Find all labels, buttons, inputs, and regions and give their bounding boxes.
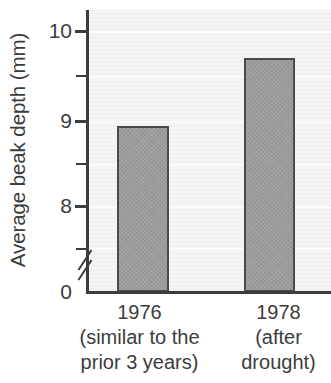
bar-1976 (117, 126, 169, 292)
bar-fill-texture (119, 128, 167, 290)
plot-area (88, 10, 331, 292)
y-tick-label-8: 8 (32, 195, 72, 216)
y-tick-minor-9p5 (76, 75, 87, 77)
bar-1978 (244, 58, 295, 292)
x-axis-line (86, 291, 331, 294)
y-tick-label-0: 0 (32, 281, 72, 302)
x-tick-label-1976: 1976 (similar to the prior 3 years) (52, 300, 227, 375)
y-axis-title: Average beak depth (mm) (6, 33, 30, 267)
y-tick-8 (75, 205, 88, 208)
axis-break-slash-lower (78, 259, 93, 280)
bar-chart-figure: Average beak depth (mm) 10 9 8 0 (0, 0, 331, 383)
y-axis-title-container: Average beak depth (mm) (0, 0, 36, 300)
x-label-year-1976: 1976 (52, 300, 227, 325)
x-label-sub1-1976: (similar to the (52, 325, 227, 350)
axis-break-icon (72, 250, 102, 280)
y-tick-minor-8p5 (76, 163, 87, 165)
x-axis-labels: 1976 (similar to the prior 3 years) 1978… (52, 300, 331, 383)
bar-fill-texture (246, 60, 293, 290)
x-label-sub1-1978: (after (226, 325, 331, 350)
y-tick-label-10: 10 (32, 20, 72, 41)
x-label-sub2-1978: drought) (226, 350, 331, 375)
y-tick-10 (75, 30, 88, 33)
y-tick-9 (75, 120, 88, 123)
x-tick-label-1978: 1978 (after drought) (226, 300, 331, 375)
gridline-10 (88, 31, 331, 33)
x-label-sub2-1976: prior 3 years) (52, 350, 227, 375)
x-label-year-1978: 1978 (226, 300, 331, 325)
y-tick-label-9: 9 (32, 110, 72, 131)
